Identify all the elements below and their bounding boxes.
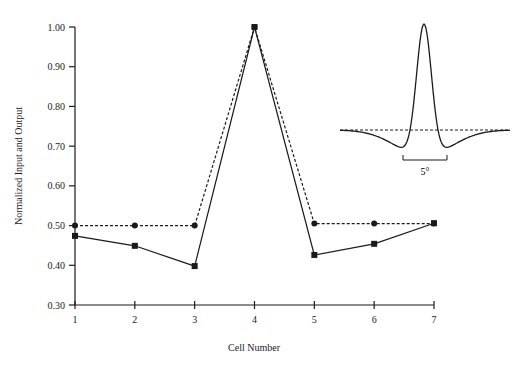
y-tick-label: 1.00 — [48, 22, 66, 33]
y-tick-label: 0.30 — [48, 300, 66, 311]
chart: 0.300.400.500.600.700.800.901.00 1234567… — [0, 0, 527, 368]
inset-scale-label: 5° — [421, 166, 430, 177]
square-marker — [192, 263, 198, 269]
x-tick-label: 6 — [372, 314, 377, 325]
y-ticks: 0.300.400.500.600.700.800.901.00 — [48, 22, 76, 311]
inset-scale-bar — [403, 155, 447, 160]
x-tick-label: 4 — [252, 314, 257, 325]
square-marker — [72, 233, 78, 239]
y-tick-label: 0.90 — [48, 61, 66, 72]
series-line-output — [75, 27, 434, 266]
plot-series — [72, 24, 437, 269]
square-marker — [311, 252, 317, 258]
square-marker — [371, 241, 377, 247]
inset-dog-curve — [340, 24, 510, 147]
circle-marker — [192, 223, 198, 229]
circle-marker — [311, 221, 317, 227]
circle-marker — [72, 223, 78, 229]
square-marker — [431, 220, 437, 226]
series-line-input — [75, 27, 434, 226]
x-tick-label: 2 — [132, 314, 137, 325]
x-axis-title: Cell Number — [228, 342, 281, 353]
x-tick-label: 5 — [312, 314, 317, 325]
y-tick-label: 0.40 — [48, 260, 66, 271]
y-tick-label: 0.50 — [48, 220, 66, 231]
y-tick-label: 0.70 — [48, 141, 66, 152]
y-tick-label: 0.60 — [48, 180, 66, 191]
y-axis-title: Normalized Input and Output — [13, 107, 24, 225]
square-marker — [252, 24, 258, 30]
circle-marker — [132, 223, 138, 229]
y-tick-label: 0.80 — [48, 101, 66, 112]
x-tick-label: 3 — [192, 314, 197, 325]
x-tick-label: 1 — [73, 314, 78, 325]
square-marker — [132, 243, 138, 249]
inset-receptive-field-profile: 5° — [340, 24, 510, 177]
circle-marker — [371, 221, 377, 227]
axes — [75, 27, 434, 305]
x-tick-label: 7 — [432, 314, 437, 325]
